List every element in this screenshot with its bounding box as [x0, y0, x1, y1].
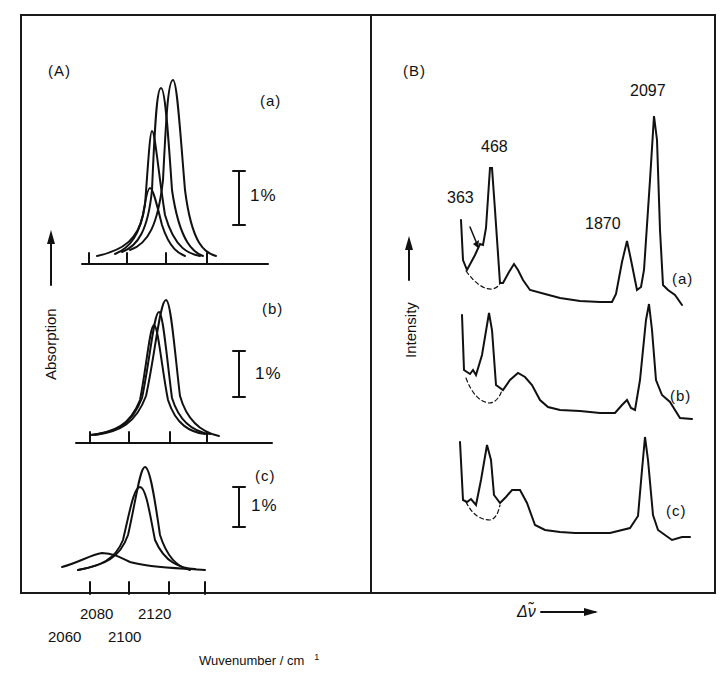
- peak-label-363: 363: [447, 189, 474, 207]
- tick-2080: 2080: [80, 605, 113, 622]
- y-axis-label-intensity: Intensity: [402, 302, 419, 358]
- subplot-c-label: (c): [255, 467, 276, 484]
- spectrum-c-label: (c): [666, 502, 687, 519]
- panel-b-title: (B): [403, 62, 426, 79]
- scale-bar-b: [233, 351, 245, 397]
- subplot-b-label: (b): [262, 300, 283, 317]
- scale-label-c: 1%: [251, 496, 278, 516]
- x-axis-label-wavenumber: Wuvenumber / cm1: [199, 652, 319, 668]
- spectrum-b-label: (b): [670, 387, 691, 404]
- panel-b-spectrum-c: [460, 437, 690, 540]
- peak-label-1870: 1870: [585, 215, 621, 233]
- subplot-a-label: (a): [260, 92, 281, 109]
- absorption-arrow-icon: [47, 230, 55, 285]
- panel-a-subplot-b: [76, 300, 272, 443]
- intensity-arrow-icon: [405, 236, 413, 280]
- scale-bar-a: [233, 171, 245, 225]
- peak-label-2097: 2097: [630, 82, 666, 100]
- x-axis-label-delta-nu: Δν̃: [517, 603, 536, 621]
- panel-b-spectrum-b: [462, 304, 692, 419]
- tick-2060: 2060: [48, 628, 81, 645]
- scale-label-a: 1%: [250, 186, 277, 206]
- scale-bar-c: [233, 487, 245, 527]
- x-axis-label-superscript: 1: [314, 652, 319, 662]
- x-axis-label-text: Wuvenumber / cm: [199, 653, 304, 668]
- delta-nu-arrow-icon: [541, 608, 598, 616]
- panel-a-subplot-c: [62, 467, 205, 594]
- peak-label-468: 468: [481, 138, 508, 156]
- tick-2100: 2100: [108, 628, 141, 645]
- spectrum-a-label: (a): [672, 270, 693, 287]
- tick-2120: 2120: [138, 605, 171, 622]
- plot-lines: [0, 0, 727, 673]
- y-axis-label-absorption: Absorption: [42, 308, 59, 380]
- scale-label-b: 1%: [255, 364, 282, 384]
- panel-a-title: (A): [48, 62, 71, 79]
